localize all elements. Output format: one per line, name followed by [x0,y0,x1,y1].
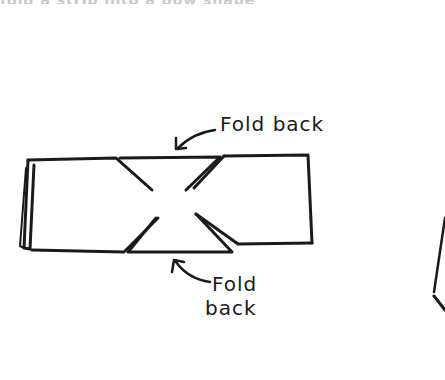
bottom-fold-label-line1: Fold [212,272,257,296]
partial-shape-right [434,218,445,292]
bottom-fold-label-line2: back [205,296,257,320]
top-arrow [178,130,215,148]
right-panel-outline [224,155,312,243]
top-fold-label: Fold back [220,112,324,136]
bottom-fold-triangle [128,214,232,252]
bottom-arrow [176,262,210,282]
fold-diagram [0,0,445,380]
